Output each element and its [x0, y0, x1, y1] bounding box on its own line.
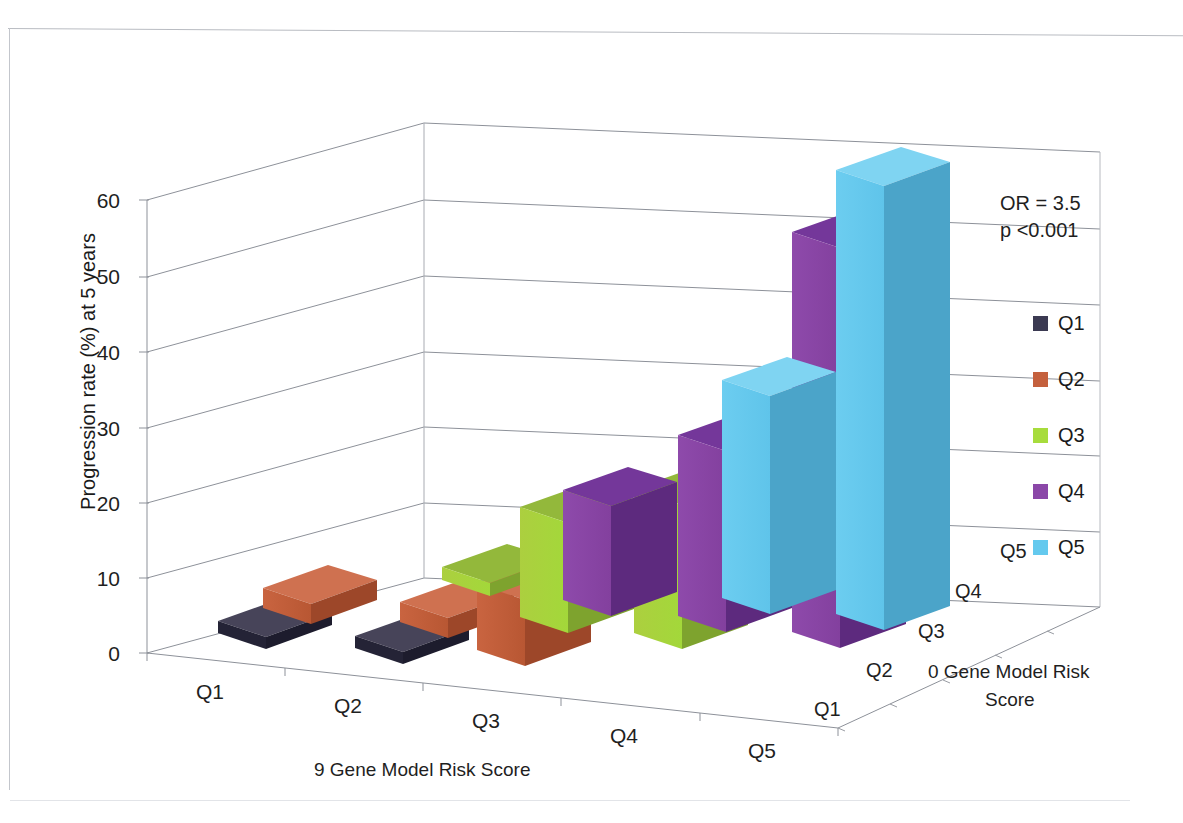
bar-x-Q3-z-Q4: [563, 467, 677, 616]
z-tick-q5: Q5: [1000, 540, 1027, 563]
legend-item-q5[interactable]: Q5: [1033, 536, 1085, 559]
legend-item-q4[interactable]: Q4: [1033, 480, 1085, 503]
legend-swatch-q4-icon: [1033, 484, 1048, 499]
legend-label-q3: Q3: [1058, 424, 1085, 447]
z-tick-q1: Q1: [814, 698, 841, 721]
legend-label-q1: Q1: [1058, 312, 1085, 335]
legend-label-q4: Q4: [1058, 480, 1085, 503]
legend-label-q2: Q2: [1058, 368, 1085, 391]
legend-swatch-q5-icon: [1033, 540, 1048, 555]
odds-ratio-annotation: OR = 3.5: [1000, 192, 1081, 215]
z-axis-title-line2: Score: [985, 689, 1035, 711]
y-tick-30: 30: [72, 417, 120, 441]
legend-item-q2[interactable]: Q2: [1033, 368, 1085, 391]
legend-swatch-q1-icon: [1033, 316, 1048, 331]
y-tick-20: 20: [72, 492, 120, 516]
x-tick-q4: Q4: [610, 724, 638, 748]
legend-swatch-q2-icon: [1033, 372, 1048, 387]
legend-swatch-q3-icon: [1033, 428, 1048, 443]
x-tick-q2: Q2: [334, 694, 362, 718]
legend-item-q3[interactable]: Q3: [1033, 424, 1085, 447]
z-tick-q4: Q4: [955, 580, 982, 603]
legend-label-q5: Q5: [1058, 536, 1085, 559]
y-tick-50: 50: [72, 265, 120, 289]
z-tick-q3: Q3: [918, 620, 945, 643]
y-tick-10: 10: [72, 567, 120, 591]
y-tick-60: 60: [72, 189, 120, 213]
x-tick-q5: Q5: [748, 739, 776, 763]
chart-page: Progression rate (%) at 5 years 60 50 40…: [0, 0, 1183, 823]
z-axis-title-line1: 0 Gene Model Risk: [928, 661, 1090, 683]
bar-x-Q4-z-Q5: [722, 357, 836, 614]
x-tick-q1: Q1: [196, 680, 224, 704]
y-tick-40: 40: [72, 341, 120, 365]
x-axis-title: 9 Gene Model Risk Score: [314, 759, 531, 781]
bar-x-Q5-z-Q5: [836, 147, 950, 630]
legend-item-q1[interactable]: Q1: [1033, 312, 1085, 335]
y-tick-0: 0: [72, 642, 120, 666]
z-tick-q2: Q2: [866, 659, 893, 682]
chart-3d-bar: Progression rate (%) at 5 years 60 50 40…: [0, 0, 1183, 823]
x-tick-q3: Q3: [472, 709, 500, 733]
pvalue-annotation: p <0.001: [1000, 219, 1078, 242]
